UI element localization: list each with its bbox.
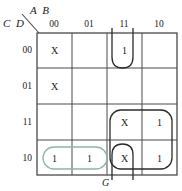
column-header-11: 11 — [107, 20, 141, 30]
column-header-01: 01 — [72, 20, 106, 30]
cell-r01-c00: X — [37, 82, 72, 92]
cell-r10-c10: 1 — [142, 154, 177, 164]
column-header-00: 00 — [37, 20, 71, 30]
axis-label-ab: A B — [30, 5, 51, 16]
cell-r00-c11: 1 — [107, 46, 142, 56]
row-header-00: 00 — [14, 46, 32, 56]
axis-label-cd: C D — [3, 18, 26, 29]
cell-r00-c00: X — [37, 46, 72, 56]
cell-r11-c10: 1 — [142, 118, 177, 128]
row-header-01: 01 — [14, 82, 32, 92]
cell-r11-c11: X — [107, 118, 142, 128]
karnaugh-map-figure: A B C D 00 01 11 10 00 01 11 10 X 1 X X … — [0, 0, 182, 191]
column-header-10: 10 — [142, 20, 176, 30]
cell-r10-c00: 1 — [37, 154, 72, 164]
row-header-11: 11 — [14, 118, 32, 128]
cell-r10-c01: 1 — [72, 154, 107, 164]
cell-r10-c11: X — [107, 154, 142, 164]
row-header-10: 10 — [14, 154, 32, 164]
output-label-g: G — [102, 178, 109, 188]
